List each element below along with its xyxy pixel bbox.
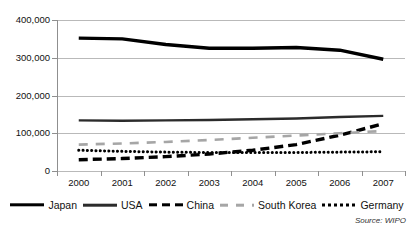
x-axis-tick-label: 2002 (144, 177, 188, 188)
x-axis-tick-label: 2004 (231, 177, 275, 188)
legend-swatch-icon (10, 200, 44, 210)
x-axis-tick (144, 171, 145, 176)
x-axis-tick (362, 171, 363, 176)
legend-item-japan[interactable]: Japan (10, 200, 77, 211)
y-axis-tick-label: 100,000 (1, 128, 50, 138)
plot-area (57, 20, 405, 171)
y-axis-tick-label: 0 (1, 166, 50, 176)
legend-swatch-icon (83, 200, 117, 210)
y-axis-tick-label: 300,000 (1, 53, 50, 63)
legend-swatch-icon (220, 200, 254, 210)
chart-legend: JapanUSAChinaSouth KoreaGermany (0, 196, 414, 214)
x-axis-tick (188, 171, 189, 176)
x-axis-tick-label: 2006 (318, 177, 362, 188)
x-axis-tick (101, 171, 102, 176)
legend-label: South Korea (258, 200, 316, 211)
y-axis-tick (52, 20, 58, 21)
series-line-germany (79, 150, 384, 152)
x-axis-tick-label: 2003 (188, 177, 232, 188)
x-axis-tick (405, 171, 406, 176)
y-axis-tick (52, 58, 58, 59)
x-axis-tick (275, 171, 276, 176)
legend-item-south-korea[interactable]: South Korea (220, 200, 316, 211)
legend-label: Germany (360, 200, 403, 211)
legend-item-germany[interactable]: Germany (322, 200, 403, 211)
y-axis-tick-label: 200,000 (1, 91, 50, 101)
chart-figure: 0100,000200,000300,000400,000 2000200120… (0, 0, 414, 232)
series-line-usa (79, 116, 384, 121)
legend-swatch-icon (149, 200, 183, 210)
series-line-china (79, 124, 384, 160)
source-note: Source: WIPO (355, 216, 406, 225)
legend-item-usa[interactable]: USA (83, 200, 143, 211)
legend-swatch-icon (322, 200, 356, 210)
y-axis-tick (52, 96, 58, 97)
x-axis-tick (318, 171, 319, 176)
x-axis-tick-label: 2000 (57, 177, 101, 188)
legend-label: USA (121, 200, 143, 211)
x-axis-tick (231, 171, 232, 176)
series-lines (57, 20, 405, 171)
y-axis-tick (52, 171, 58, 172)
legend-label: China (187, 200, 214, 211)
legend-item-china[interactable]: China (149, 200, 214, 211)
x-axis-tick-label: 2001 (101, 177, 145, 188)
y-axis-tick (52, 133, 58, 134)
series-line-south-korea (79, 131, 384, 145)
series-line-japan (79, 38, 384, 59)
x-axis-tick-label: 2005 (275, 177, 319, 188)
x-axis-tick-label: 2007 (362, 177, 406, 188)
y-axis-tick-label: 400,000 (1, 15, 50, 25)
legend-label: Japan (48, 200, 77, 211)
